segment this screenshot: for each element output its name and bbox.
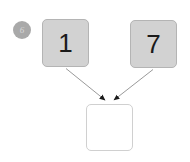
card-source-one-value: 1 [58, 30, 72, 56]
step-number-badge: 6 [13, 21, 31, 39]
card-source-one[interactable]: 1 [42, 19, 89, 67]
arrow-from-card-two [114, 70, 153, 101]
arrow-from-card-one [66, 69, 105, 101]
card-source-two-value: 7 [146, 31, 160, 57]
card-result-target[interactable] [86, 104, 133, 151]
diagram-canvas: 6 1 7 [0, 0, 190, 162]
card-source-two[interactable]: 7 [130, 20, 177, 68]
